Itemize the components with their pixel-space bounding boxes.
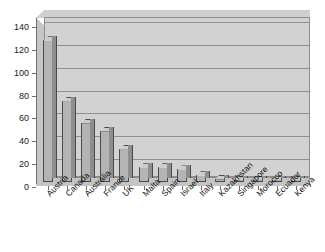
bar-side-face (90, 119, 95, 178)
bar-side-face (71, 97, 76, 178)
bar-side-face (109, 127, 114, 178)
bars-layer (0, 0, 325, 252)
bar-side-face (186, 165, 191, 178)
bar-side-face (52, 36, 57, 178)
bar-austria (43, 40, 53, 182)
bar-malta (139, 167, 149, 182)
bar-side-face (148, 163, 153, 178)
bar-side-face (205, 171, 210, 178)
bar-chart: 020406080100120140 AustriaCanadaAustrali… (0, 0, 325, 252)
plot-area: 020406080100120140 AustriaCanadaAustrali… (0, 0, 325, 252)
bar-side-face (128, 145, 133, 178)
bar-canada (62, 101, 72, 182)
bar-side-face (167, 163, 172, 178)
bar-kazakhstan (215, 179, 225, 182)
